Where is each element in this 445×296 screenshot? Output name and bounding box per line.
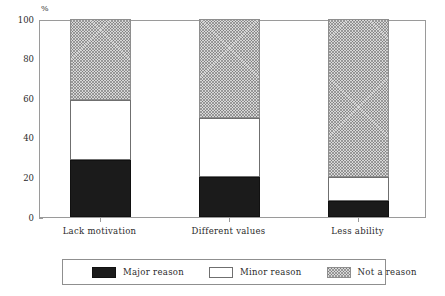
x-tick-label-lack-motivation: Lack motivation [63, 226, 137, 237]
legend-row: Major reason Minor reason Not a reason [63, 260, 385, 284]
x-tick-mark-lack-motivation [100, 218, 101, 222]
x-tick-label-less-ability: Less ability [331, 226, 384, 237]
legend-item-major-reason: Major reason [92, 267, 184, 278]
y-tick-0: 0 [0, 214, 34, 223]
legend-item-minor-reason: Minor reason [209, 267, 302, 278]
segment-major-reason [328, 201, 389, 217]
x-tick-label-different-values: Different values [192, 226, 266, 237]
y-tick-80: 80 [0, 55, 34, 64]
y-tick-100: 100 [0, 16, 34, 25]
legend-swatch-minor-reason [209, 267, 233, 278]
y-tick-label-0: 0 [4, 214, 34, 223]
segment-not-a-reason [328, 19, 389, 177]
legend-label-major-reason: Major reason [123, 267, 184, 277]
legend-swatch-not-a-reason [327, 267, 351, 278]
y-tick-mark-0 [39, 218, 43, 219]
legend-label-minor-reason: Minor reason [240, 267, 302, 277]
y-axis-unit-label: % [41, 4, 49, 13]
y-tick-60: 60 [0, 95, 34, 104]
segment-major-reason [70, 160, 131, 217]
legend-item-not-a-reason: Not a reason [327, 267, 417, 278]
y-tick-40: 40 [0, 134, 34, 143]
y-tick-label-20: 20 [4, 174, 34, 183]
segment-minor-reason [328, 177, 389, 201]
legend-label-not-a-reason: Not a reason [358, 267, 417, 277]
stacked-bar-chart: % 100 80 60 40 20 0 [0, 0, 445, 296]
y-tick-label-80: 80 [4, 55, 34, 64]
segment-not-a-reason [70, 19, 131, 100]
legend-swatch-major-reason [92, 267, 116, 278]
chart-legend: Major reason Minor reason Not a reason [62, 259, 386, 285]
y-tick-label-60: 60 [4, 95, 34, 104]
segment-minor-reason [70, 100, 131, 159]
y-tick-20: 20 [0, 174, 34, 183]
plot-area [39, 20, 426, 218]
y-tick-label-40: 40 [4, 134, 34, 143]
x-tick-mark-different-values [229, 218, 230, 222]
y-tick-label-100: 100 [4, 16, 34, 25]
segment-major-reason [199, 177, 260, 217]
x-tick-mark-less-ability [358, 218, 359, 222]
segment-minor-reason [199, 118, 260, 177]
segment-not-a-reason [199, 19, 260, 118]
